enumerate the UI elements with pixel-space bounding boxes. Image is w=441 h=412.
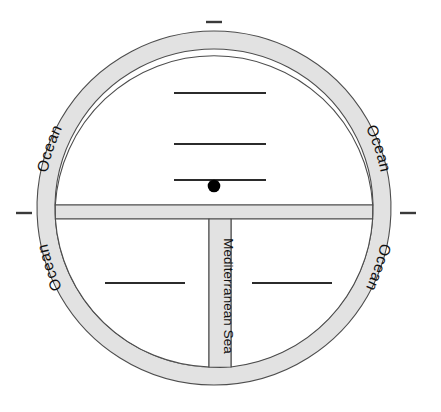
t-crossbar-water: [55, 205, 372, 219]
t-o-map-figure: Ocean Ocean Ocean Ocean Mediterranean Se…: [0, 0, 441, 412]
crossbar-band: [55, 205, 372, 219]
t-o-map-diagram: Ocean Ocean Ocean Ocean Mediterranean Se…: [0, 0, 441, 412]
center-location-dot: [208, 180, 221, 193]
mediterranean-sea-label: Mediterranean Sea: [221, 238, 236, 354]
